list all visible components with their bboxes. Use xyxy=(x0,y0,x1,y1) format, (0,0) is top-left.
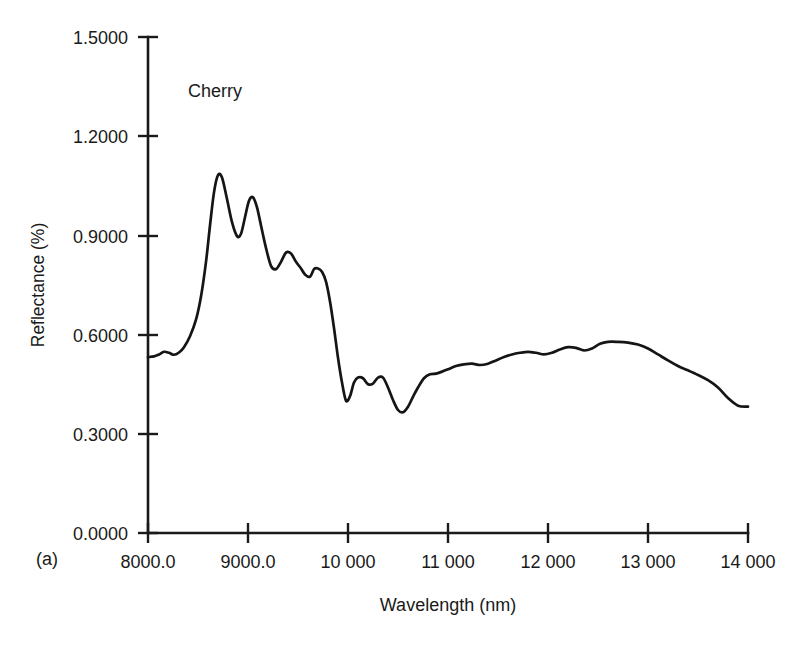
series-annotation-cherry: Cherry xyxy=(188,81,242,101)
spectrum-line-cherry xyxy=(148,174,748,413)
x-tick-label: 13 000 xyxy=(620,552,675,572)
x-axis-title: Wavelength (nm) xyxy=(380,595,516,615)
spectrum-chart: 1.5000 1.2000 0.9000 0.6000 0.3000 0.000… xyxy=(0,0,795,645)
x-tick-label: 9000.0 xyxy=(220,552,275,572)
figure-container: 1.5000 1.2000 0.9000 0.6000 0.3000 0.000… xyxy=(0,0,795,645)
y-tick-label: 1.2000 xyxy=(73,127,128,147)
y-axis-title: Reflectance (%) xyxy=(28,223,48,348)
x-tick-labels: 8000.0 9000.0 10 000 11 000 12 000 13 00… xyxy=(120,552,775,572)
panel-label: (a) xyxy=(36,549,58,569)
y-tick-label: 0.0000 xyxy=(73,524,128,544)
y-tick-label: 0.3000 xyxy=(73,425,128,445)
x-tick-label: 8000.0 xyxy=(120,552,175,572)
y-tick-label: 0.6000 xyxy=(73,326,128,346)
x-tick-label: 11 000 xyxy=(421,552,475,572)
x-tick-label: 12 000 xyxy=(520,552,575,572)
y-tick-label: 1.5000 xyxy=(73,28,128,48)
y-tick-label: 0.9000 xyxy=(73,227,128,247)
x-tick-label: 14 000 xyxy=(720,552,775,572)
x-tick-label: 10 000 xyxy=(320,552,375,572)
y-tick-labels: 1.5000 1.2000 0.9000 0.6000 0.3000 0.000… xyxy=(73,28,128,544)
